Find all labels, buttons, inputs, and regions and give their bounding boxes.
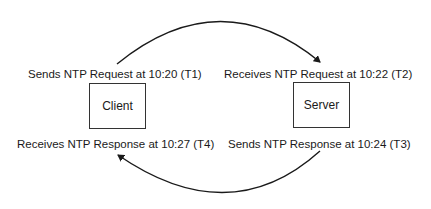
server-box: Server [293, 82, 350, 128]
t1-label: Sends NTP Request at 10:20 (T1) [28, 67, 202, 81]
client-label: Client [102, 99, 133, 113]
response-arrow [118, 151, 320, 193]
t4-label: Receives NTP Response at 10:27 (T4) [17, 137, 214, 151]
request-arrow [117, 21, 320, 64]
client-box: Client [89, 83, 146, 129]
server-label: Server [304, 98, 339, 112]
t3-label: Sends NTP Response at 10:24 (T3) [228, 137, 411, 151]
t2-label: Receives NTP Request at 10:22 (T2) [224, 67, 412, 81]
arrows-layer [0, 0, 431, 209]
